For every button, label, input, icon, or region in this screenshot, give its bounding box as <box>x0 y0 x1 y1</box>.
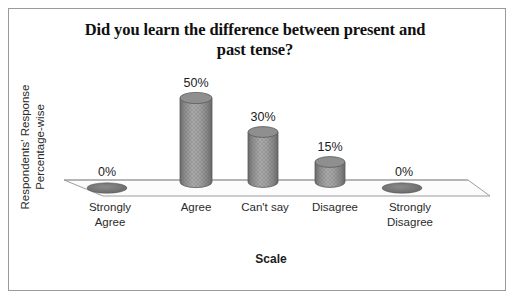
y-axis-title-line-2: Percentage-wise <box>33 85 48 210</box>
bar-strongly-agree <box>87 183 127 193</box>
x-tick-disagree: Disagree <box>312 200 358 215</box>
x-tick-agree: Agree <box>181 200 212 215</box>
bar-agree <box>180 92 212 187</box>
bar-disagree <box>315 157 345 188</box>
x-tick-cant-say: Can't say <box>241 200 289 215</box>
data-label-disagree: 15% <box>317 140 342 154</box>
data-label-strongly-disagree: 0% <box>395 165 413 179</box>
bar-cant-say <box>248 127 278 188</box>
data-label-cant-say: 30% <box>250 110 275 124</box>
x-tick-strongly-disagree-line-1: Strongly <box>389 201 431 213</box>
x-axis-title: Scale <box>52 252 490 266</box>
x-tick-strongly-agree-line-1: Strongly <box>89 201 131 213</box>
chart-title-line-2: past tense? <box>217 40 293 59</box>
x-tick-agree-line-1: Agree <box>181 201 212 213</box>
x-axis-tick-labels: Strongly Agree Agree Can't say Disagree … <box>52 200 490 244</box>
chart-figure: Did you learn the difference between pre… <box>0 0 517 306</box>
data-label-strongly-agree: 0% <box>98 165 116 179</box>
y-axis-title-line-1: Respondents' Response <box>19 85 31 210</box>
x-tick-strongly-agree: Strongly Agree <box>89 200 131 229</box>
chart-title-line-1: Did you learn the difference between pre… <box>85 20 426 39</box>
x-tick-strongly-disagree: Strongly Disagree <box>387 200 433 229</box>
x-tick-strongly-agree-line-2: Agree <box>89 215 131 230</box>
x-tick-disagree-line-1: Disagree <box>312 201 358 213</box>
y-axis-title: Respondents' Response Percentage-wise <box>16 72 50 222</box>
x-tick-cant-say-line-1: Can't say <box>241 201 289 213</box>
chart-title: Did you learn the difference between pre… <box>40 20 470 60</box>
plot-area: 0% 50% 30% 15% 0% <box>52 62 490 202</box>
data-label-agree: 50% <box>183 76 208 90</box>
bar-strongly-disagree <box>382 183 422 193</box>
x-tick-strongly-disagree-line-2: Disagree <box>387 215 433 230</box>
